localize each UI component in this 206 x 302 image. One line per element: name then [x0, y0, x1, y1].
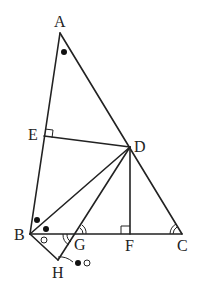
label-G: G: [74, 236, 86, 253]
label-F: F: [125, 237, 134, 254]
geometry-diagram: A E D B G F C H: [0, 0, 206, 302]
arc-C-inner: [173, 227, 177, 234]
right-angle-F: [121, 226, 130, 234]
label-C: C: [177, 237, 188, 254]
angle-dot-B2: [43, 226, 49, 232]
angle-dot-B1: [34, 217, 40, 223]
angle-dot-A: [61, 49, 67, 55]
annotation-circle: [84, 260, 90, 266]
annotation-dot: [75, 260, 81, 266]
segment-HD: [58, 147, 130, 260]
label-E: E: [28, 126, 38, 143]
label-D: D: [134, 138, 146, 155]
arc-G-inner: [80, 228, 83, 234]
segment-BH: [30, 234, 58, 260]
segment-AC: [60, 33, 182, 234]
segment-BD: [30, 147, 130, 234]
label-A: A: [54, 13, 66, 30]
segment-ED: [44, 136, 130, 147]
label-B: B: [14, 226, 25, 243]
angle-circle-B: [41, 237, 47, 243]
label-H: H: [52, 264, 64, 281]
